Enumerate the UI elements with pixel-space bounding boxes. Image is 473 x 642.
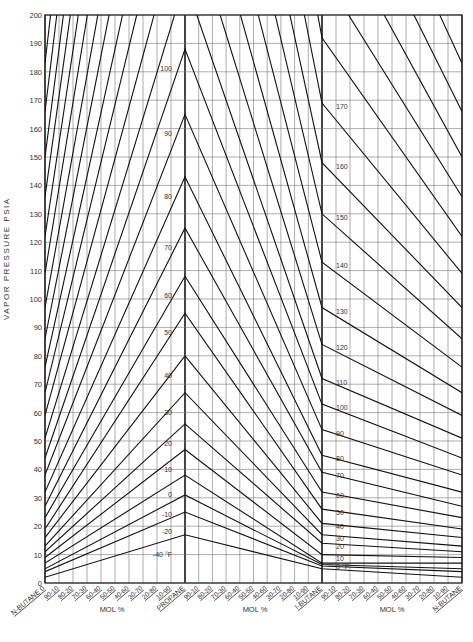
y-tick-label: 170: [29, 96, 42, 105]
isotherm-label: 70: [164, 244, 172, 251]
y-tick-label: 120: [29, 238, 42, 247]
y-tick-label: 40: [34, 465, 42, 474]
y-tick-label: 90: [34, 323, 42, 332]
isotherm-label: 90: [336, 430, 344, 437]
isotherm-label: 40: [164, 372, 172, 379]
isotherm-label: 0: [168, 491, 172, 498]
isotherm-label: 160: [336, 163, 348, 170]
y-tick-label: 190: [29, 39, 42, 48]
x-tick-label: 70-30: [70, 584, 88, 600]
isotherm-label: 80: [336, 455, 344, 462]
isotherm-label: 50: [336, 509, 344, 516]
y-tick-label: 20: [34, 522, 42, 531]
y-tick-label: 140: [29, 181, 42, 190]
isotherm-label: 40: [336, 523, 344, 530]
isotherm-label: 80: [164, 193, 172, 200]
isotherm-label: 10: [164, 466, 172, 473]
mol-percent-label: MOL %: [100, 605, 125, 614]
y-tick-label: 160: [29, 125, 42, 134]
x-tick-label: 90-10: [319, 584, 337, 600]
x-tick-label: 60-40: [361, 584, 379, 600]
isotherm-label: 0 °F: [336, 563, 349, 570]
isotherm-label: 170: [336, 103, 348, 110]
x-tick-label: 80-20: [333, 584, 351, 600]
y-tick-label: 10: [34, 551, 42, 560]
isotherm-label: 60: [336, 492, 344, 499]
y-tick-label: 180: [29, 68, 42, 77]
isotherm-label: 70: [336, 472, 344, 479]
x-tick-label: 50-50: [375, 584, 393, 600]
y-tick-label: 200: [29, 11, 42, 20]
isotherm-label: -10: [162, 511, 172, 518]
y-tick-label: 100: [29, 295, 42, 304]
isotherm-label: 50: [164, 329, 172, 336]
x-tick-label: 90-10: [42, 584, 60, 600]
isotherm-label: 30: [164, 409, 172, 416]
isotherm-label: -20: [162, 528, 172, 535]
isotherm-label: 90: [164, 130, 172, 137]
y-tick-label: 50: [34, 437, 42, 446]
mol-percent-label: MOL %: [380, 605, 405, 614]
isotherm-line: [45, 0, 462, 15]
x-tick-label: 30-70: [403, 584, 421, 600]
mol-percent-label: MOL %: [243, 605, 268, 614]
y-tick-label: 70: [34, 380, 42, 389]
y-tick-label: 110: [30, 267, 42, 276]
x-tick-label: 80-20: [56, 584, 74, 600]
isotherm-label: 20: [164, 440, 172, 447]
y-tick-label: 80: [34, 352, 42, 361]
isotherm-label: 110: [336, 379, 347, 386]
isotherm-label: 100: [160, 65, 172, 72]
x-tick-label: 50-50: [98, 584, 116, 600]
x-tick-label: 40-60: [389, 584, 407, 600]
isotherm-label: 130: [336, 308, 348, 315]
isotherm-label: 100: [336, 404, 348, 411]
y-tick-label: 60: [34, 409, 42, 418]
isotherm-label: 30: [336, 535, 344, 542]
vapor-pressure-chart: 0102030405060708090100110120130140150160…: [0, 0, 473, 642]
x-tick-label: 20-80: [140, 584, 158, 600]
y-tick-label: 130: [29, 210, 42, 219]
isotherm-label: 140: [336, 262, 348, 269]
x-tick-label: 40-60: [112, 584, 130, 600]
y-tick-label: 30: [34, 494, 42, 503]
isotherm-label: 60: [164, 292, 172, 299]
x-tick-label: 20-80: [417, 584, 435, 600]
x-tick-label: 30-70: [126, 584, 144, 600]
x-tick-label: N-BUTANE 0: [10, 584, 46, 616]
x-tick-label: 70-30: [347, 584, 365, 600]
isotherm-label: -40 °F: [153, 551, 172, 558]
y-axis-label: VAPOR PRESSURE PSIA: [2, 197, 11, 320]
isotherm-label: 20: [336, 543, 344, 550]
x-tick-label: 60-40: [84, 584, 102, 600]
isotherm-label: 150: [336, 214, 348, 221]
isotherm-label: 120: [336, 344, 348, 351]
y-tick-label: 150: [29, 153, 42, 162]
isotherm-label: 10: [336, 555, 344, 562]
